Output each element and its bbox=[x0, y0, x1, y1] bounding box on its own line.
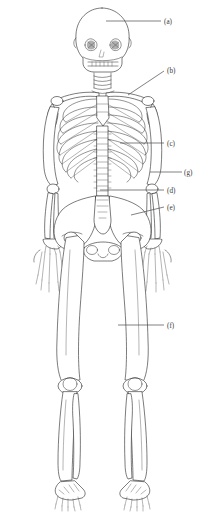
skeleton-illustration: (a)(b)(c)(g)(d)(e)(f) bbox=[0, 0, 205, 513]
left-lower-leg-group bbox=[58, 392, 80, 481]
right-arm-group bbox=[139, 107, 171, 292]
left-foot-group bbox=[55, 481, 85, 511]
skull-group bbox=[74, 8, 132, 72]
right-foot-group bbox=[120, 481, 150, 511]
label-e: (e) bbox=[167, 204, 176, 212]
label-g: (g) bbox=[184, 169, 193, 177]
cervical-spine-group bbox=[92, 73, 114, 94]
label-a: (a) bbox=[164, 18, 173, 26]
skeleton-diagram: (a)(b)(c)(g)(d)(e)(f) bbox=[0, 0, 205, 513]
thoracic-lumbar-spine-group bbox=[94, 126, 111, 196]
label-d: (d) bbox=[167, 187, 176, 195]
label-c: (c) bbox=[167, 140, 176, 148]
label-text-group: (a)(b)(c)(g)(d)(e)(f) bbox=[164, 18, 193, 330]
label-b: (b) bbox=[167, 67, 176, 75]
left-arm-group bbox=[34, 107, 66, 292]
sternum-group bbox=[97, 96, 109, 126]
leader-line-b bbox=[128, 71, 164, 95]
right-lower-leg-group bbox=[125, 392, 147, 481]
label-f: (f) bbox=[167, 322, 175, 330]
